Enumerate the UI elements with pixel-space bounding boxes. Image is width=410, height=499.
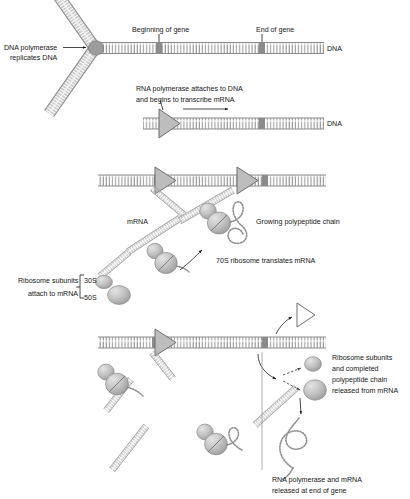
transcription-translation-diagram: DNA polymerase replicates DNA Beginning … [0, 0, 410, 499]
ribosome-70s-termination-lower [197, 424, 228, 455]
mrna-strand-short [150, 186, 186, 218]
nascent-chain-stub [127, 387, 143, 396]
free-ribosome-subunits [96, 275, 131, 304]
subunit-release-arrow [258, 354, 276, 379]
dna-polymerase-hub [88, 41, 103, 55]
mrna-release-arrow [300, 398, 301, 414]
label-released-line3: polypeptide chain [332, 376, 387, 384]
label-dna-polymerase-line2: replicates DNA [10, 54, 58, 62]
gene-end-marker [262, 175, 268, 186]
rna-polymerase-released-triangle [297, 303, 315, 327]
label-dna-right-2: DNA [327, 120, 342, 128]
released-ribosome-subunits [304, 357, 327, 400]
label-released-line4: released from mRNA [332, 387, 398, 395]
label-ribosome-subunits-line1: Ribosome subunits [18, 277, 79, 285]
rna-polymerase-triangle [155, 329, 176, 356]
ribosome-30s-subunit [96, 275, 113, 288]
ribosome-50s-subunit [108, 286, 131, 305]
dna-strand-replication [100, 43, 324, 54]
rna-polymerase-triangle [159, 109, 180, 138]
label-mrna: mRNA [127, 218, 148, 226]
label-ribosome-subunits-line2: attach to mRNA [28, 290, 78, 298]
label-growing-polypeptide: Growing polypeptide chain [256, 218, 340, 226]
released-mrna-coil [280, 418, 307, 468]
mrna-strand-termination-lower [109, 424, 149, 472]
polymerase-release-arrow [276, 317, 292, 334]
label-beginning-of-gene: Beginning of gene [132, 26, 189, 34]
panel-elongation: mRNA [18, 167, 340, 304]
nascent-chain-stub [176, 266, 189, 272]
label-rna-poly-attach-line2: and begins to transcribe mRNA [136, 96, 235, 104]
label-released-line2: and completed [332, 365, 379, 373]
label-dna-polymerase-line1: DNA polymerase [4, 44, 57, 52]
ribosome-70s-upper [200, 203, 231, 234]
label-subunit-50s: 50S [84, 294, 97, 302]
ribosome-70s-lower [147, 243, 189, 273]
rna-polymerase-triangle [237, 167, 258, 194]
panel-initiation: RNA polymerase attaches to DNA and begin… [136, 85, 342, 138]
gene-end-marker [259, 118, 265, 129]
label-rna-released-line1: RNA polymerase and mRNA [272, 476, 362, 484]
label-ribosome-70s: 70S ribosome translates mRNA [216, 257, 316, 265]
dna-strand-elongation [98, 175, 326, 186]
label-released-line1: Ribosome subunits [332, 354, 393, 362]
diagram-canvas: DNA polymerase replicates DNA Beginning … [0, 0, 410, 499]
growing-polypeptide-chain [228, 202, 247, 244]
ribosome-30s-subunit [305, 357, 322, 372]
label-subunit-30s: 30S [84, 277, 97, 285]
label-dna-right-1: DNA [327, 45, 342, 53]
mrna-strand-released [253, 385, 299, 427]
label-end-of-gene: End of gene [256, 26, 294, 34]
dna-strand-termination [98, 337, 326, 348]
ribosome-assembly-arrow [180, 250, 202, 270]
ribosome-50s-subunit [304, 380, 327, 400]
label-rna-poly-attach-line1: RNA polymerase attaches to DNA [136, 85, 243, 93]
gene-end-marker [262, 337, 268, 348]
label-rna-released-line2: released at end of gene [272, 487, 347, 495]
gene-start-marker [156, 43, 162, 54]
gene-end-marker [259, 43, 265, 54]
panel-termination: Ribosome subunits and completed polypept… [98, 303, 399, 495]
ribosome-70s-termination-upper [98, 364, 143, 396]
released-subunit-arrow-30s [283, 368, 301, 375]
growing-polypeptide-chain [227, 428, 242, 450]
